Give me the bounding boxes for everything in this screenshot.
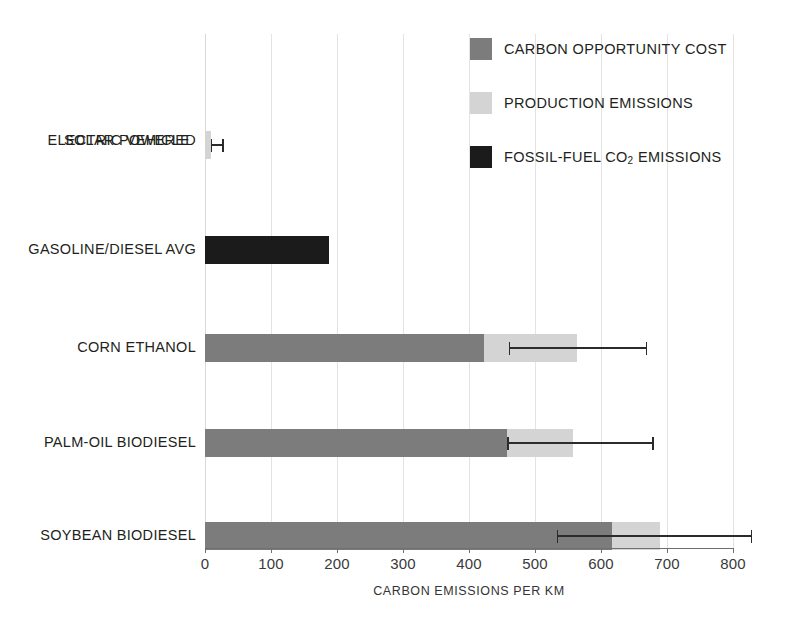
x-tick-label-500: 500 <box>505 555 565 572</box>
error-bar-cap-low <box>509 342 511 355</box>
legend-item-fossil-fuel-co2-emissions[interactable]: FOSSIL-FUEL CO2 EMISSIONS <box>470 146 770 168</box>
error-bar-line <box>557 535 751 537</box>
legend-swatch-icon-production-emissions <box>470 92 492 114</box>
error-bar-cap-low <box>557 530 559 543</box>
error-bar-line <box>507 442 652 444</box>
category-label-corn-line1: CORN ETHANOL <box>6 338 196 357</box>
x-tick-label-800: 800 <box>703 555 763 572</box>
error-bar-cap-high <box>646 342 648 355</box>
x-tick-mark-700 <box>667 548 668 553</box>
x-tick-label-100: 100 <box>241 555 301 572</box>
bar-segment-carbon-opportunity-cost <box>205 429 507 457</box>
error-bar-cap-high <box>222 139 224 152</box>
category-label-soybean-line1: SOYBEAN BIODIESEL <box>6 526 196 545</box>
x-tick-mark-400 <box>469 548 470 553</box>
legend-label-fossil-pre: FOSSIL-FUEL CO <box>504 149 628 165</box>
bar-segment-fossil-fuel-co2 <box>205 236 329 264</box>
legend-item-carbon-opportunity-cost[interactable]: CARBON OPPORTUNITY COST <box>470 38 770 60</box>
x-tick-label-700: 700 <box>637 555 697 572</box>
gridline-100 <box>271 34 272 548</box>
carbon-emissions-chart: SOLAR POWERED ELECTRIC VEHICLE GASOLINE/… <box>0 0 794 631</box>
error-bar-line <box>211 144 222 146</box>
legend-label-production-emissions: PRODUCTION EMISSIONS <box>504 95 693 111</box>
bar-segment-carbon-opportunity-cost <box>205 334 484 362</box>
x-tick-mark-300 <box>403 548 404 553</box>
legend-item-production-emissions[interactable]: PRODUCTION EMISSIONS <box>470 92 770 114</box>
gridline-0 <box>205 34 206 548</box>
category-label-solar: SOLAR POWERED ELECTRIC VEHICLE <box>0 131 196 150</box>
x-tick-mark-100 <box>271 548 272 553</box>
category-label-solar-line2: ELECTRIC VEHICLE <box>0 131 190 150</box>
bar-segment-carbon-opportunity-cost <box>205 522 612 550</box>
x-tick-mark-800 <box>733 548 734 553</box>
category-label-gasoline-line1: GASOLINE/DIESEL AVG <box>6 240 196 259</box>
x-tick-mark-600 <box>601 548 602 553</box>
gridline-300 <box>403 34 404 548</box>
gridline-200 <box>337 34 338 548</box>
error-bar-cap-low <box>211 139 213 152</box>
legend: CARBON OPPORTUNITY COST PRODUCTION EMISS… <box>470 38 770 200</box>
x-tick-label-400: 400 <box>439 555 499 572</box>
category-label-palm-line1: PALM-OIL BIODIESEL <box>6 433 196 452</box>
x-tick-label-300: 300 <box>373 555 433 572</box>
error-bar-cap-low <box>507 437 509 450</box>
legend-label-fossil-fuel-co2-emissions: FOSSIL-FUEL CO2 EMISSIONS <box>504 149 722 165</box>
error-bar-cap-high <box>652 437 654 450</box>
legend-label-carbon-opportunity-cost: CARBON OPPORTUNITY COST <box>504 41 727 57</box>
x-axis-title: CARBON EMISSIONS PER KM <box>205 584 733 598</box>
x-tick-mark-0 <box>205 548 206 553</box>
legend-label-fossil-sub: 2 <box>628 155 634 166</box>
x-tick-mark-500 <box>535 548 536 553</box>
error-bar-cap-high <box>751 530 753 543</box>
legend-label-fossil-post: EMISSIONS <box>634 149 722 165</box>
x-tick-label-200: 200 <box>307 555 367 572</box>
x-tick-mark-200 <box>337 548 338 553</box>
legend-swatch-icon-fossil-fuel-co2-emissions <box>470 146 492 168</box>
x-tick-label-0: 0 <box>175 555 235 572</box>
error-bar-line <box>509 347 646 349</box>
legend-swatch-icon-carbon-opportunity-cost <box>470 38 492 60</box>
x-tick-label-600: 600 <box>571 555 631 572</box>
